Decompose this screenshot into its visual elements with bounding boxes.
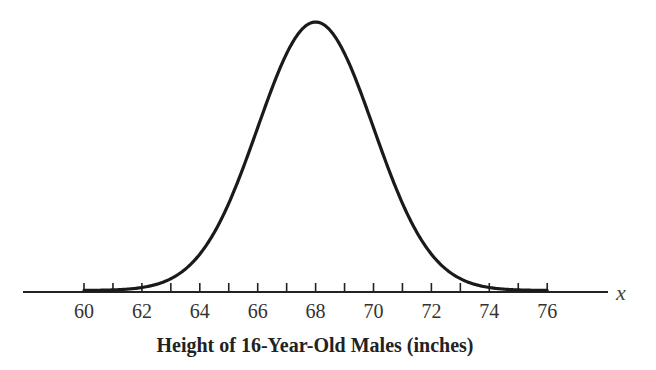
x-tick-label: 68 (306, 300, 326, 322)
x-tick-label: 76 (537, 300, 557, 322)
x-tick-label: 60 (74, 300, 94, 322)
normal-distribution-chart: 606264666870727476 x Height of 16-Year-O… (0, 0, 656, 370)
x-tick-label: 74 (479, 300, 499, 322)
x-tick-label: 64 (190, 300, 210, 322)
x-tick-label: 70 (364, 300, 384, 322)
x-variable-label: x (615, 280, 626, 305)
x-axis-title: Height of 16-Year-Old Males (inches) (157, 334, 474, 357)
x-tick-label: 66 (248, 300, 268, 322)
x-axis-tick-labels: 606264666870727476 (74, 300, 557, 322)
x-tick-label: 62 (132, 300, 152, 322)
normal-curve (84, 22, 547, 290)
x-tick-label: 72 (421, 300, 441, 322)
